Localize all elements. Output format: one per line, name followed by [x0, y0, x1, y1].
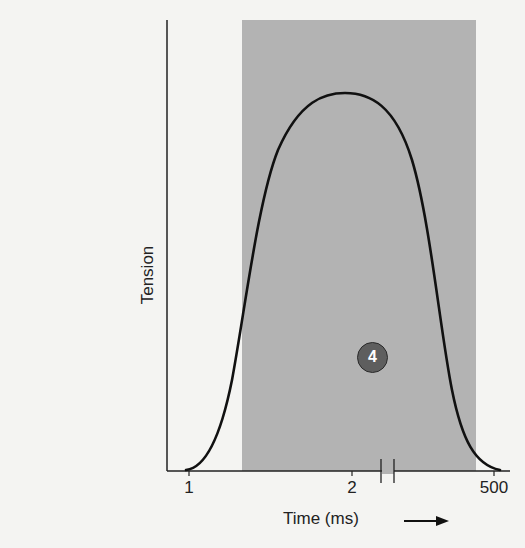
y-axis-title: Tension — [128, 235, 168, 315]
axis-break-icon — [381, 459, 394, 483]
x-tick-label-1: 1 — [184, 478, 193, 498]
x-tick-label-500: 500 — [480, 478, 508, 498]
x-axis-title: Time (ms) — [283, 509, 359, 529]
phase-badge: 4 — [357, 342, 388, 373]
y-axis-title-text: Tension — [138, 246, 158, 305]
shaded-region — [242, 20, 476, 471]
chart-canvas — [0, 0, 525, 548]
right-arrow-icon — [404, 514, 450, 528]
x-tick-label-2: 2 — [347, 478, 356, 498]
